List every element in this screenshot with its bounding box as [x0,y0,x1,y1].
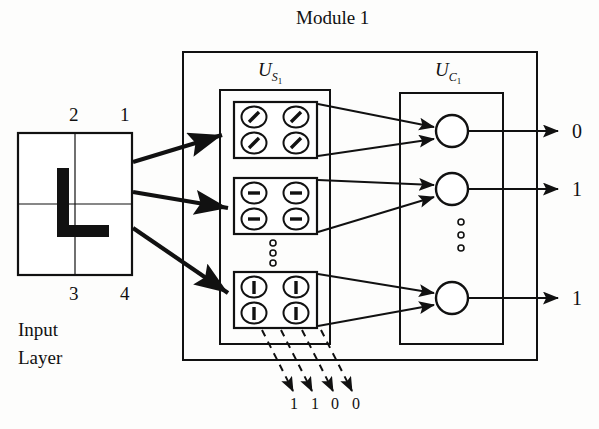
quadrant-label-1: 1 [120,105,130,124]
dashed-readout-value-3: 0 [331,396,339,412]
cell-diagonal-1 [242,107,267,128]
output-value-3: 1 [572,288,582,308]
uc-node-2 [436,173,468,205]
uc-node-ellipsis-icon [458,219,464,251]
uc-node-1 [436,115,468,147]
input-layer-caption-line2: Layer [18,348,62,367]
cell-vertical-1 [242,277,267,298]
uc1-label-sub: C [449,70,457,84]
quadrant-label-2: 2 [69,105,79,124]
cell-horizontal-2 [284,183,309,204]
uc-node-3 [436,282,468,314]
connection-us-to-uc [318,104,434,326]
uc1-label-subsub: 1 [457,76,462,86]
us1-label-subsub: 1 [278,76,283,86]
connection-input-to-us [133,135,228,293]
us-plane-vertical [234,272,317,328]
us1-label-main: U [258,59,272,80]
figure-root: Module 1 2 1 3 4 Input Layer US1 UC1 0 1… [0,0,599,429]
cell-diagonal-3 [242,133,267,154]
us-plane-ellipsis-icon [270,240,276,266]
quadrant-label-4: 4 [120,284,130,303]
output-value-2: 1 [572,179,582,199]
input-layer-box [18,133,132,275]
cell-horizontal-4 [284,209,309,230]
cell-vertical-3 [242,303,267,324]
us-plane-horizontal [234,178,317,234]
diagram-canvas [0,0,599,429]
uc1-label-main: U [435,59,449,80]
us1-label: US1 [258,60,282,86]
cell-vertical-4 [284,303,309,324]
cell-vertical-2 [284,277,309,298]
cell-horizontal-1 [242,183,267,204]
us-plane-diagonal [234,102,317,158]
page-title: Module 1 [296,8,369,27]
output-value-1: 0 [572,121,582,141]
cell-diagonal-4 [284,133,309,154]
input-layer-caption-line1: Input [18,320,58,339]
uc1-label: UC1 [435,60,461,86]
quadrant-label-3: 3 [69,284,79,303]
dashed-readout-value-1: 1 [290,396,298,412]
cell-diagonal-2 [284,107,309,128]
dashed-readout-value-4: 0 [352,396,360,412]
connection-uc-to-output [469,131,558,298]
cell-horizontal-3 [242,209,267,230]
dashed-readout-value-2: 1 [311,396,319,412]
